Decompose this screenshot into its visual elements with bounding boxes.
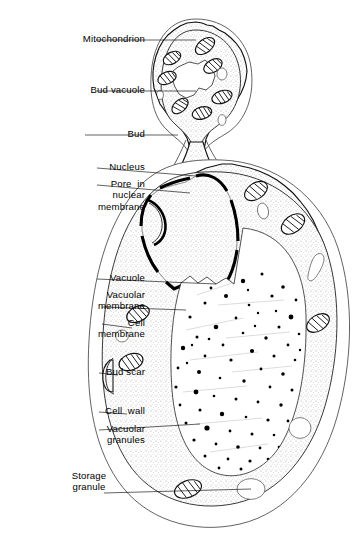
bud-vesicle <box>218 115 226 126</box>
label-bud: Bud <box>58 128 145 139</box>
label-storage-granule: Storage granule <box>37 470 141 493</box>
diagram-canvas: MitochondrionBud vacuoleBudNucleusPore i… <box>0 0 362 538</box>
label-vacuolar-granules: Vacuolar granules <box>33 423 145 446</box>
label-bud-vacuole: Bud vacuole <box>25 84 145 95</box>
label-nuclear-pore: Pore in nuclear membrane <box>40 178 145 212</box>
label-mitochondrion: Mitochondrion <box>14 33 145 44</box>
bud-vesicle <box>217 68 227 80</box>
yeast-cell-figure <box>0 0 362 538</box>
label-cell-wall: Cell wall <box>41 405 145 416</box>
label-vacuolar-membrane: Vacuolar membrane <box>35 289 145 312</box>
label-nucleus: Nucleus <box>44 161 145 172</box>
label-cell-membrane: Cell membrane <box>55 317 145 340</box>
label-vacuole: Vacuole <box>46 272 145 283</box>
cytoplasmic-vesicle <box>289 418 311 439</box>
label-bud-scar: Bud scar <box>41 366 145 377</box>
